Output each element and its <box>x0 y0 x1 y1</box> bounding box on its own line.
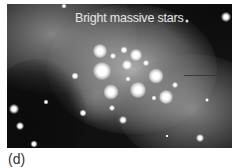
bright-star <box>93 44 107 58</box>
field-star <box>16 122 24 130</box>
bright-star <box>130 49 142 61</box>
star <box>126 77 131 82</box>
image-caption: Bright massive stars <box>75 11 184 25</box>
pointer-line <box>184 75 222 76</box>
field-star <box>9 104 19 114</box>
caption-pointer-dot <box>186 20 189 23</box>
star <box>121 47 128 54</box>
bright-star <box>159 90 173 104</box>
star <box>143 60 149 66</box>
field-star <box>166 135 169 138</box>
star <box>119 116 127 124</box>
bright-star <box>149 69 164 84</box>
star <box>110 53 116 59</box>
field-star <box>31 141 38 148</box>
field-star <box>44 100 49 105</box>
panel-label: (d) <box>8 151 25 167</box>
bright-star <box>104 85 119 100</box>
bright-star <box>130 82 146 98</box>
star <box>109 105 115 111</box>
bright-star <box>93 62 111 80</box>
field-star <box>196 134 204 142</box>
field-star <box>205 98 209 102</box>
star <box>152 96 157 101</box>
field-star <box>72 73 79 80</box>
field-star <box>80 110 87 117</box>
nebula-photo: Bright massive stars <box>7 4 232 148</box>
field-star <box>221 12 231 22</box>
bright-star <box>122 60 132 70</box>
star <box>172 82 178 88</box>
